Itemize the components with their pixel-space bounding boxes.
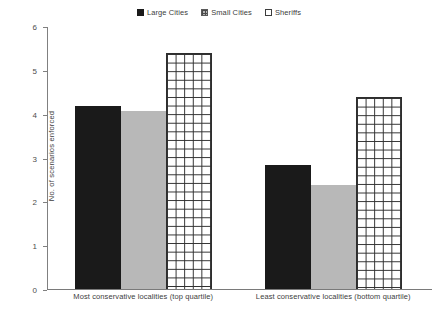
y-axis-tick-label: 0	[33, 286, 37, 295]
y-axis-tick-label: 3	[33, 154, 37, 163]
legend-label-small-cities: Small Cities	[211, 8, 252, 17]
chart-legend: Large Cities Small Cities Sheriffs	[0, 8, 438, 17]
x-axis-category-labels: Most conservative localities (top quarti…	[47, 292, 432, 308]
x-axis-category-label: Least conservative localities (bottom qu…	[256, 292, 411, 301]
bar-sheriffs-group-1	[166, 53, 212, 289]
bar-sheriffs-group-2	[356, 97, 402, 289]
gray-hatched-square-icon	[201, 9, 208, 16]
plot-area: 6543210	[47, 27, 432, 290]
bar-small-cities-group-2	[311, 185, 357, 289]
legend-item-large-cities: Large Cities	[137, 8, 188, 17]
bar-large-cities-group-2	[265, 165, 311, 289]
legend-item-small-cities: Small Cities	[201, 8, 252, 17]
y-axis-tick-label: 6	[33, 23, 37, 32]
legend-label-large-cities: Large Cities	[147, 8, 188, 17]
y-axis-tick-label: 4	[33, 110, 37, 119]
y-axis-tick: 0	[43, 290, 47, 291]
solid-dark-square-icon	[137, 9, 144, 16]
legend-item-sheriffs: Sheriffs	[265, 8, 301, 17]
y-axis-tick-label: 5	[33, 66, 37, 75]
x-axis-category-label: Most conservative localities (top quarti…	[73, 292, 213, 301]
legend-label-sheriffs: Sheriffs	[275, 8, 301, 17]
bar-chart: Large Cities Small Cities Sheriffs No. o…	[0, 0, 438, 312]
bar-large-cities-group-1	[75, 106, 121, 289]
y-axis-tick-label: 2	[33, 198, 37, 207]
bars-layer	[47, 27, 432, 290]
bar-small-cities-group-1	[121, 111, 167, 289]
white-outline-square-icon	[265, 9, 272, 16]
y-axis-tick-label: 1	[33, 242, 37, 251]
